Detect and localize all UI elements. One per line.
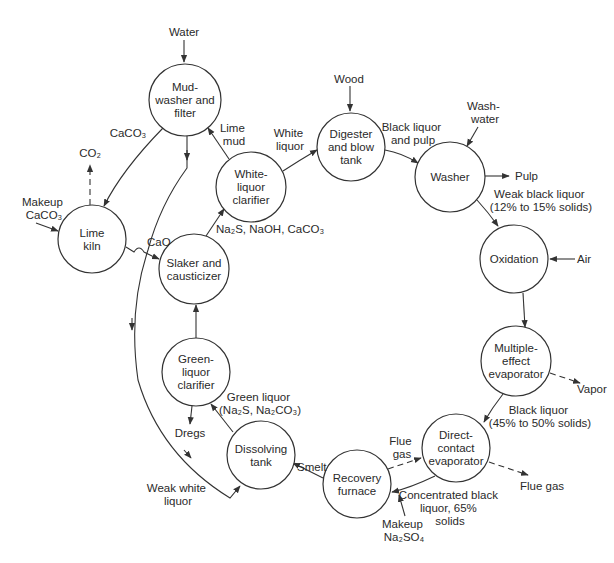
node-label: White-liquorclarifier bbox=[232, 168, 269, 206]
node-label: Green-liquorclarifier bbox=[177, 353, 214, 391]
flow-wash-water-in bbox=[467, 127, 478, 146]
label-flue-gas-out: Flue gas bbox=[520, 480, 564, 492]
flow-black-liquor-and-pulp bbox=[385, 150, 418, 163]
node-label: Oxidation bbox=[490, 253, 539, 265]
node-oxidation: Oxidation bbox=[480, 225, 548, 293]
label-dregs: Dregs bbox=[175, 427, 206, 439]
flow-vapor-out bbox=[550, 373, 580, 383]
label-vapor: Vapor bbox=[577, 383, 607, 395]
label-water: Water bbox=[169, 26, 199, 38]
label-smelt: Smelt bbox=[297, 461, 327, 473]
node-green-liquor-clarifier: Green-liquorclarifier bbox=[162, 338, 230, 406]
label-flue-gas-in: Flue gas bbox=[389, 435, 415, 460]
label-weak-white-liquor: Weak white liquor bbox=[147, 482, 209, 507]
flow-dregs-out bbox=[190, 406, 192, 424]
node-dissolving-tank: Dissolvingtank bbox=[227, 421, 295, 489]
label-air: Air bbox=[577, 253, 591, 265]
label-wash-water: Wash- water bbox=[467, 100, 503, 125]
node-mud-washer: Mud-washer andfilter bbox=[149, 64, 221, 136]
kraft-recovery-cycle-diagram: Mud-washer andfilterLimekilnWhite-liquor… bbox=[0, 0, 614, 563]
flow-oxidation-to-mee bbox=[523, 293, 525, 327]
flow-caco3-to-kiln bbox=[104, 128, 163, 206]
label-makeup-na2so4: Makeup Na₂SO₄ bbox=[382, 518, 426, 543]
label-black-liquor-and-pulp: Black liquor and pulp bbox=[382, 121, 445, 146]
node-label: Washer bbox=[430, 171, 469, 183]
node-label: Slaker andcausticizer bbox=[167, 257, 222, 282]
label-wood: Wood bbox=[334, 73, 364, 85]
label-co2: CO₂ bbox=[79, 147, 101, 159]
node-recovery-furnace: Recoveryfurnace bbox=[323, 450, 391, 518]
label-black-liquor-45-50: Black liquor (45% to 50% solids) bbox=[489, 404, 591, 429]
node-direct-contact-evaporator: Direct-contactevaporator bbox=[422, 414, 490, 482]
label-caco3-to-kiln: CaCO₃ bbox=[110, 127, 147, 139]
label-cao: CaO bbox=[147, 236, 171, 248]
node-lime-kiln: Limekiln bbox=[58, 205, 126, 273]
flow-flue-gas-out bbox=[489, 462, 528, 475]
label-green-liquor: Green liquor (Na₂S, Na₂CO₃) bbox=[219, 391, 301, 416]
label-makeup-caco3: Makeup CaCO₃ bbox=[22, 196, 66, 221]
label-na2s-naoh-caco3: Na₂S, NaOH, CaCO₃ bbox=[216, 223, 325, 235]
flow-cao-to-slaker bbox=[126, 247, 159, 259]
node-white-liquor-clarifier: White-liquorclarifier bbox=[216, 152, 286, 222]
node-label: Recoveryfurnace bbox=[333, 472, 382, 497]
label-weak-black-liquor: Weak black liquor (12% to 15% solids) bbox=[490, 188, 592, 213]
node-digester: Digesterand blowtank bbox=[317, 113, 385, 181]
label-white-liquor: White liquor bbox=[274, 127, 307, 152]
label-pulp: Pulp bbox=[515, 170, 538, 182]
node-washer: Washer bbox=[415, 142, 485, 212]
flow-arrow-mid-c bbox=[184, 450, 191, 458]
label-lime-mud: Lime mud bbox=[220, 122, 248, 147]
flow-makeup-caco3 bbox=[36, 223, 58, 231]
flow-white-liquor bbox=[283, 150, 317, 171]
node-multiple-effect-evaporator: Multiple-effectevaporator bbox=[481, 326, 551, 396]
